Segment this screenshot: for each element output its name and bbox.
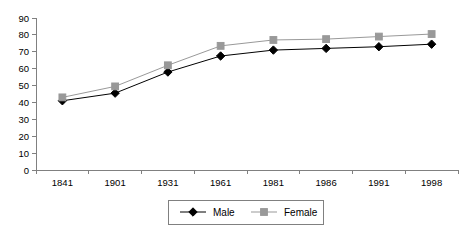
y-tick-label: 40 [18, 97, 29, 108]
y-tick-label: 50 [18, 80, 29, 91]
data-point-male [216, 52, 224, 60]
y-tick-label: 70 [18, 46, 29, 57]
legend: MaleFemale [168, 200, 323, 224]
data-point-female [323, 36, 330, 43]
legend-item-female[interactable]: Female [251, 207, 318, 218]
data-point-female [428, 31, 435, 38]
y-tick-label: 20 [18, 131, 29, 142]
series-female [59, 31, 435, 101]
x-tick-label: 1991 [368, 177, 389, 188]
legend-label: Male [213, 207, 235, 218]
x-tick-label: 1986 [316, 177, 337, 188]
data-point-male [269, 46, 277, 54]
data-point-female [217, 42, 224, 49]
data-point-male [427, 40, 435, 48]
y-tick-label: 10 [18, 148, 29, 159]
x-tick-label: 1841 [52, 177, 73, 188]
x-tick-label: 1901 [105, 177, 126, 188]
x-tick-label: 1998 [421, 177, 442, 188]
data-point-female [112, 83, 119, 90]
data-point-female [59, 94, 66, 101]
y-tick-label: 90 [18, 13, 29, 24]
chart-container: 0102030405060708090184119011931196119811… [0, 0, 470, 240]
x-tick-label: 1981 [263, 177, 284, 188]
legend-label: Female [284, 207, 318, 218]
line-chart: 0102030405060708090184119011931196119811… [0, 0, 470, 240]
series-male [58, 40, 436, 105]
data-point-female [270, 37, 277, 44]
x-tick-label: 1961 [210, 177, 231, 188]
data-point-female [164, 62, 171, 69]
data-point-male [375, 43, 383, 51]
y-tick-label: 60 [18, 63, 29, 74]
y-tick-label: 80 [18, 29, 29, 40]
x-tick-label: 1931 [157, 177, 178, 188]
y-tick-label: 0 [24, 165, 29, 176]
data-point-female [375, 33, 382, 40]
y-tick-label: 30 [18, 114, 29, 125]
data-point-male [322, 44, 330, 52]
legend-marker-square [261, 209, 268, 216]
